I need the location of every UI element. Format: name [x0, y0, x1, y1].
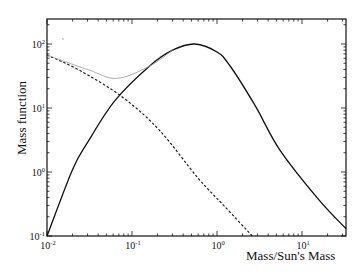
y-tick-label: 101	[32, 102, 45, 114]
tick-labels: 10-210-110010110-1100101102	[30, 38, 310, 251]
mass-function-chart: 10-210-110010110-1100101102 Mass/Sun's M…	[0, 0, 363, 278]
series-line-dashed	[47, 55, 252, 236]
stray-dot	[62, 38, 63, 39]
x-tick-label: 100	[211, 239, 224, 251]
plot-lines	[47, 44, 346, 236]
y-tick-label: 100	[32, 166, 45, 178]
y-tick-label: 102	[32, 38, 45, 50]
series-line-thin-gray	[47, 50, 173, 78]
series-line-solid	[47, 44, 346, 236]
x-axis-title: Mass/Sun's Mass	[246, 248, 335, 263]
axis-ticks	[47, 19, 346, 236]
x-tick-label: 10-1	[125, 239, 140, 251]
y-axis-title: Mass function	[14, 80, 29, 155]
x-tick-label: 10-2	[40, 239, 55, 251]
plot-frame	[47, 19, 346, 236]
